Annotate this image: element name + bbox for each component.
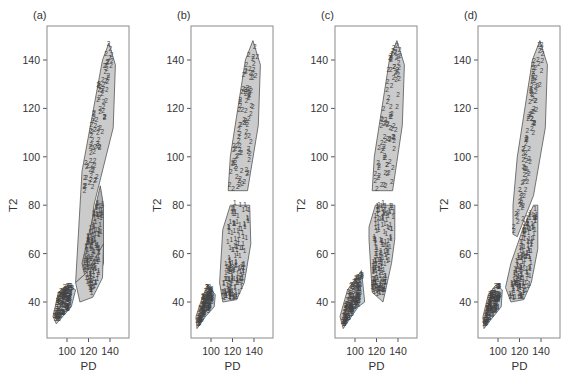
data-point: 2 bbox=[99, 83, 103, 90]
panel-label: (b) bbox=[177, 9, 190, 21]
data-point: 1 bbox=[374, 216, 378, 223]
data-point: 1 bbox=[225, 292, 229, 299]
data-point: 3 bbox=[206, 304, 210, 311]
data-point: 2 bbox=[231, 185, 235, 192]
y-tick-label: 40 bbox=[459, 296, 471, 308]
data-point: 1 bbox=[513, 293, 517, 300]
data-point: 1 bbox=[233, 292, 237, 299]
data-point: 2 bbox=[541, 57, 545, 64]
data-point: 2 bbox=[240, 88, 244, 95]
data-point: 1 bbox=[522, 235, 526, 242]
data-point: 2 bbox=[253, 43, 257, 50]
y-tick-label: 40 bbox=[316, 296, 328, 308]
x-tick-label: 120 bbox=[80, 345, 98, 357]
data-point: 2 bbox=[239, 96, 243, 103]
data-point: 1 bbox=[374, 244, 378, 251]
data-point: 2 bbox=[239, 149, 243, 156]
data-point: 2 bbox=[391, 164, 395, 171]
data-point: 2 bbox=[249, 102, 253, 109]
data-point: 1 bbox=[235, 279, 239, 286]
data-point: 2 bbox=[238, 175, 242, 182]
data-point: 2 bbox=[97, 136, 101, 143]
data-point: 1 bbox=[386, 257, 390, 264]
data-point: 2 bbox=[396, 91, 400, 98]
data-point: 1 bbox=[373, 235, 377, 242]
panel-label: (c) bbox=[321, 9, 334, 21]
data-point: 1 bbox=[240, 275, 244, 282]
data-point: 1 bbox=[377, 265, 381, 272]
y-axis-title: T2 bbox=[7, 198, 19, 211]
data-point: 1 bbox=[525, 219, 529, 226]
y-tick-label: 120 bbox=[22, 102, 40, 114]
data-point: 2 bbox=[244, 166, 248, 173]
data-point: 2 bbox=[527, 170, 531, 177]
y-axis-title: T2 bbox=[151, 198, 163, 211]
data-point: 3 bbox=[342, 318, 346, 325]
data-point: 2 bbox=[384, 182, 388, 189]
data-point: 2 bbox=[85, 163, 89, 170]
data-point: 2 bbox=[229, 168, 233, 175]
data-point: 2 bbox=[91, 167, 95, 174]
y-tick-label: 60 bbox=[28, 248, 40, 260]
y-tick-label: 40 bbox=[172, 296, 184, 308]
data-point: 1 bbox=[382, 275, 386, 282]
data-point: 2 bbox=[382, 105, 386, 112]
data-point: 2 bbox=[530, 90, 534, 97]
data-point: 2 bbox=[102, 98, 106, 105]
data-point: 1 bbox=[99, 228, 103, 235]
data-point: 1 bbox=[515, 257, 519, 264]
data-point: 2 bbox=[232, 157, 236, 164]
data-point: 2 bbox=[91, 183, 95, 190]
y-tick-label: 120 bbox=[453, 102, 471, 114]
data-point: 2 bbox=[255, 53, 259, 60]
data-point: 1 bbox=[93, 248, 97, 255]
data-point: 1 bbox=[86, 236, 90, 243]
data-point: 2 bbox=[394, 48, 398, 55]
data-point: 1 bbox=[388, 221, 392, 228]
data-point: 1 bbox=[233, 235, 237, 242]
data-point: 2 bbox=[109, 62, 113, 69]
x-tick-label: 140 bbox=[389, 345, 407, 357]
data-point: 3 bbox=[57, 307, 61, 314]
data-point: 1 bbox=[93, 215, 97, 222]
data-point: 2 bbox=[248, 150, 252, 157]
data-point: 2 bbox=[247, 156, 251, 163]
data-point: 1 bbox=[246, 215, 250, 222]
data-point: 1 bbox=[531, 234, 535, 241]
data-point: 2 bbox=[390, 178, 394, 185]
data-point: 2 bbox=[524, 136, 528, 143]
data-point: 1 bbox=[96, 258, 100, 265]
data-point: 2 bbox=[249, 110, 253, 117]
data-point: 1 bbox=[528, 265, 532, 272]
data-point: 2 bbox=[249, 87, 253, 94]
data-point: 1 bbox=[382, 228, 386, 235]
data-point: 2 bbox=[534, 88, 538, 95]
data-point: 2 bbox=[234, 145, 238, 152]
data-point: 2 bbox=[242, 119, 246, 126]
data-point: 2 bbox=[96, 96, 100, 103]
data-point: 2 bbox=[108, 54, 112, 61]
y-tick-label: 40 bbox=[28, 296, 40, 308]
data-point: 3 bbox=[492, 307, 496, 314]
y-tick-label: 80 bbox=[316, 199, 328, 211]
figure: (a) 406080100120140100120140PDT222222222… bbox=[0, 0, 570, 376]
x-tick-label: 120 bbox=[224, 345, 242, 357]
panel-d: (d) 406080100120140100120140PDT222222222… bbox=[438, 9, 560, 372]
data-point: 2 bbox=[384, 119, 388, 126]
data-point: 2 bbox=[103, 113, 107, 120]
data-point: 3 bbox=[67, 292, 71, 299]
y-tick-label: 140 bbox=[166, 54, 184, 66]
y-tick-label: 60 bbox=[459, 248, 471, 260]
data-point: 2 bbox=[93, 126, 97, 133]
data-point: 1 bbox=[386, 212, 390, 219]
data-point: 2 bbox=[536, 56, 540, 63]
y-tick-label: 100 bbox=[453, 151, 471, 163]
data-point: 2 bbox=[92, 115, 96, 122]
data-point: 1 bbox=[380, 237, 384, 244]
data-point: 3 bbox=[201, 301, 205, 308]
data-point: 1 bbox=[228, 244, 232, 251]
data-point: 1 bbox=[529, 255, 533, 262]
x-axis-title: PD bbox=[81, 360, 97, 372]
data-point: 2 bbox=[254, 72, 258, 79]
x-tick-label: 140 bbox=[245, 345, 263, 357]
